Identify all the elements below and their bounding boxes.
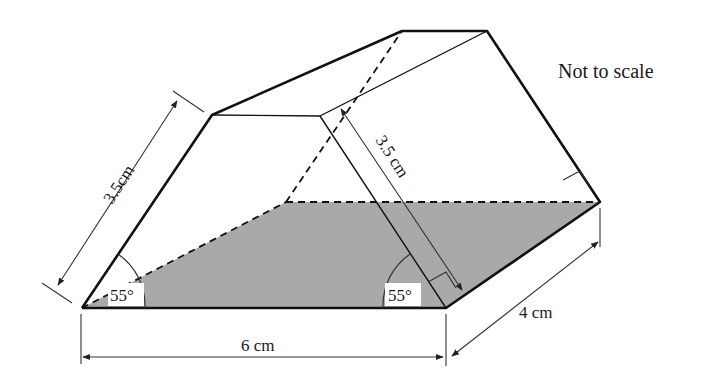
prism-diagram: Not to scale 3.5cm 3.5 cm 6 cm 4 cm 55° … [0, 0, 728, 388]
edge-front-top [212, 115, 320, 116]
label-base-length: 6 cm [241, 336, 275, 355]
label-depth: 4 cm [519, 303, 553, 322]
label-angle-left: 55° [110, 286, 134, 305]
extension-line-bottom [42, 283, 72, 303]
label-slant-height: 3.5 cm [372, 132, 413, 181]
label-angle-right: 55° [388, 286, 412, 305]
label-slant-edge: 3.5cm [99, 162, 138, 208]
edge-top-right-depth [320, 31, 487, 116]
not-to-scale-note: Not to scale [558, 60, 654, 82]
extension-line-top [173, 91, 204, 112]
